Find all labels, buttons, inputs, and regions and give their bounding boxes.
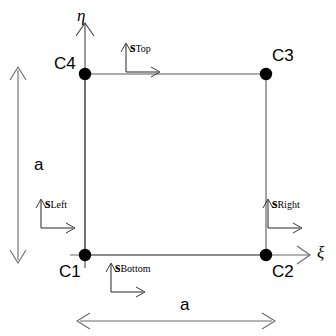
- node-label-c4: C4: [54, 54, 76, 74]
- node-c4: [79, 68, 91, 80]
- node-c1: [79, 249, 91, 261]
- figure-canvas: η ξ C4 C3 C1 C2 sTop sRight sLeft sBotto…: [0, 0, 336, 336]
- frame-right-subscript: Right: [277, 199, 299, 210]
- eta-axis-label: η: [77, 6, 85, 26]
- element-square: [85, 74, 266, 255]
- dimension-width: [77, 313, 275, 329]
- dimension-height-label: a: [34, 155, 43, 175]
- node-label-c3: C3: [272, 46, 294, 66]
- frame-left-label: sLeft: [45, 196, 67, 212]
- node-c3: [260, 68, 272, 80]
- dimension-width-label: a: [180, 295, 189, 315]
- xi-axis-label: ξ: [317, 243, 324, 263]
- frame-bottom-label: sBottom: [115, 260, 150, 276]
- frame-top-label: sTop: [130, 40, 151, 56]
- node-label-c2: C2: [272, 262, 294, 282]
- node-c2: [260, 249, 272, 261]
- dimension-height: [10, 67, 26, 263]
- frame-right-label: sRight: [272, 196, 300, 212]
- node-label-c1: C1: [59, 262, 81, 282]
- corner-nodes: [79, 68, 272, 261]
- frame-top-subscript: Top: [135, 43, 150, 54]
- frame-bottom-subscript: Bottom: [120, 263, 150, 274]
- frame-left-subscript: Left: [50, 199, 67, 210]
